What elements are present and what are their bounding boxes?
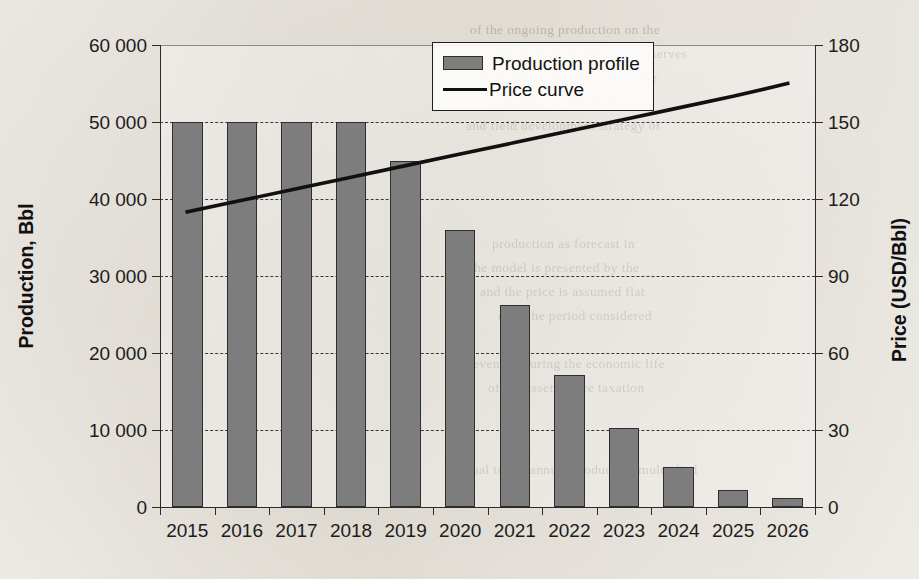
y-axis-right-tick [815, 45, 823, 46]
x-axis-tick-label: 2022 [548, 520, 590, 542]
legend-item-price-curve: Price curve [443, 76, 643, 102]
x-axis-tick [760, 507, 761, 515]
y-axis-right-line [815, 45, 816, 507]
y-axis-left-tick [152, 430, 160, 431]
y-axis-right-tick-label: 150 [828, 113, 860, 132]
legend-label-price-curve: Price curve [489, 80, 584, 99]
plot-area: 010 00020 00030 00040 00050 00060 000 03… [160, 45, 815, 507]
y-axis-left-tick [152, 122, 160, 123]
y-axis-right-tick [815, 199, 823, 200]
x-axis-tick-label: 2016 [221, 520, 263, 542]
y-axis-right-tick-label: 30 [828, 421, 849, 440]
x-axis-tick-label: 2020 [439, 520, 481, 542]
legend-item-production-profile: Production profile [443, 50, 643, 76]
y-axis-right-tick-label: 90 [828, 267, 849, 286]
y-axis-right-tick-label: 120 [828, 190, 860, 209]
x-axis-tick [378, 507, 379, 515]
x-axis-tick [269, 507, 270, 515]
y-axis-right-tick [815, 122, 823, 123]
x-axis-tick-label: 2024 [657, 520, 699, 542]
y-axis-title-left: Production, Bbl [15, 203, 38, 348]
x-axis-tick-label: 2025 [712, 520, 754, 542]
y-axis-right-tick [815, 430, 823, 431]
y-axis-left-tick [152, 353, 160, 354]
chart-figure: Production, Bbl Price (USD/Bbl) 010 0002… [0, 0, 919, 579]
y-axis-title-right: Price (USD/Bbl) [888, 218, 911, 362]
x-axis-tick-label: 2018 [330, 520, 372, 542]
y-axis-left-tick [152, 507, 160, 508]
y-axis-right-tick [815, 507, 823, 508]
y-axis-right-tick-label: 180 [828, 36, 860, 55]
y-axis-left-tick-label: 10 000 [89, 421, 147, 440]
x-axis-tick [597, 507, 598, 515]
legend-line-icon [443, 88, 487, 91]
y-axis-left-tick-label: 20 000 [89, 344, 147, 363]
y-axis-right-tick [815, 353, 823, 354]
x-axis-tick [488, 507, 489, 515]
y-axis-left-line [160, 45, 161, 507]
x-axis-tick [651, 507, 652, 515]
x-axis-tick [706, 507, 707, 515]
x-axis-tick [160, 507, 161, 515]
y-axis-right-tick-label: 0 [828, 498, 839, 517]
x-axis-tick [542, 507, 543, 515]
y-axis-left-tick-label: 50 000 [89, 113, 147, 132]
y-axis-left-tick-label: 0 [136, 498, 147, 517]
chart-legend: Production profile Price curve [432, 42, 654, 111]
y-axis-left-tick [152, 199, 160, 200]
x-axis-tick [433, 507, 434, 515]
legend-swatch-icon [443, 56, 483, 70]
x-axis-tick [215, 507, 216, 515]
x-axis-tick [815, 507, 816, 515]
y-axis-right-tick-label: 60 [828, 344, 849, 363]
y-axis-left-tick [152, 45, 160, 46]
x-axis-tick-label: 2023 [603, 520, 645, 542]
y-axis-left-tick-label: 60 000 [89, 36, 147, 55]
x-axis-tick-label: 2021 [494, 520, 536, 542]
y-axis-left-tick-label: 40 000 [89, 190, 147, 209]
y-axis-left-tick [152, 276, 160, 277]
x-axis-tick [324, 507, 325, 515]
x-axis-tick-label: 2019 [384, 520, 426, 542]
legend-label-production-profile: Production profile [492, 54, 640, 73]
y-axis-right-tick [815, 276, 823, 277]
x-axis-tick-label: 2026 [767, 520, 809, 542]
x-axis-tick-label: 2017 [275, 520, 317, 542]
line-series-price-curve [160, 45, 815, 507]
y-axis-left-tick-label: 30 000 [89, 267, 147, 286]
x-axis-tick-label: 2015 [166, 520, 208, 542]
x-axis-line [160, 507, 815, 508]
